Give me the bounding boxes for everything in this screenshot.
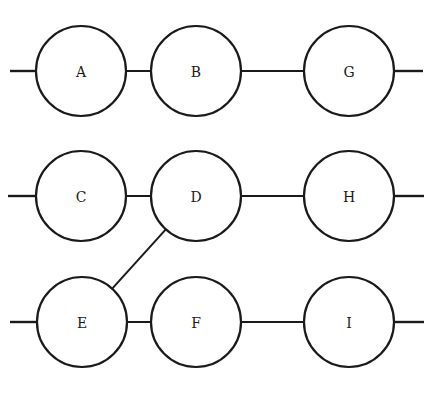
node-label: E: [77, 315, 87, 331]
node-label: F: [191, 315, 201, 331]
node-label: A: [75, 64, 87, 80]
node-i: I: [304, 277, 394, 367]
node-c: C: [36, 151, 126, 241]
node-label: H: [343, 189, 355, 205]
node-e: E: [37, 277, 127, 367]
network-diagram: ABGCDHEFI: [0, 0, 444, 395]
node-f: F: [151, 277, 241, 367]
node-d: D: [151, 151, 241, 241]
node-label: D: [190, 189, 201, 205]
node-label: C: [76, 189, 87, 205]
node-label: I: [346, 315, 352, 331]
node-b: B: [151, 26, 241, 116]
node-a: A: [36, 26, 126, 116]
node-label: G: [343, 64, 354, 80]
node-h: H: [304, 151, 394, 241]
node-g: G: [304, 26, 394, 116]
nodes: ABGCDHEFI: [36, 26, 394, 367]
node-label: B: [191, 64, 201, 80]
edge-d-e: [112, 229, 166, 288]
